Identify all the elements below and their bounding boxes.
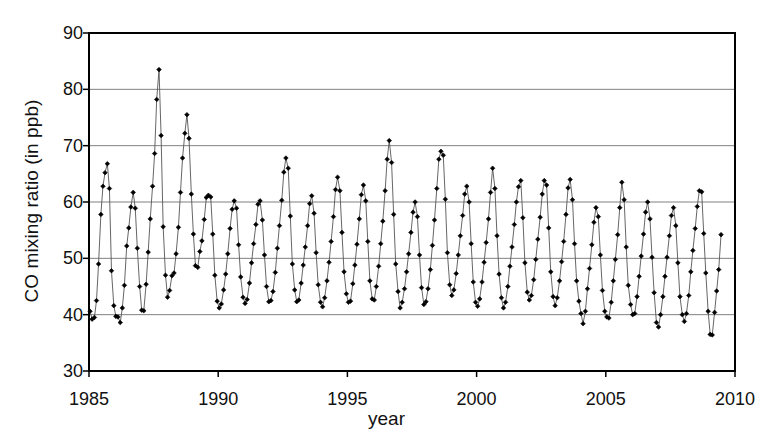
data-point	[454, 271, 459, 276]
data-point	[105, 161, 110, 166]
data-point	[161, 224, 166, 229]
data-point	[327, 260, 332, 265]
data-point	[167, 288, 172, 293]
data-point	[426, 286, 431, 291]
data-point	[581, 321, 586, 326]
data-point	[488, 190, 493, 195]
data-point	[146, 250, 151, 255]
data-point	[527, 298, 532, 303]
data-point	[516, 184, 521, 189]
data-point	[462, 192, 467, 197]
data-point	[701, 231, 706, 236]
data-point	[486, 217, 491, 222]
data-point	[387, 138, 392, 143]
data-point	[691, 248, 696, 253]
data-point	[133, 206, 138, 211]
data-point	[351, 281, 356, 286]
data-point	[152, 151, 157, 156]
data-point	[620, 180, 625, 185]
data-point	[529, 293, 534, 298]
data-point	[325, 279, 330, 284]
data-point	[654, 320, 659, 325]
data-point	[585, 286, 590, 291]
data-point	[464, 184, 469, 189]
data-point	[637, 274, 642, 279]
data-point	[417, 253, 422, 258]
data-point	[652, 290, 657, 295]
data-point	[393, 262, 398, 267]
data-point	[413, 200, 418, 205]
data-point	[288, 214, 293, 219]
data-point	[333, 187, 338, 192]
data-point	[615, 232, 620, 237]
page-bleed-artifact	[0, 424, 773, 441]
data-point	[357, 217, 362, 222]
data-point	[290, 262, 295, 267]
data-point	[150, 184, 155, 189]
data-point	[137, 284, 142, 289]
data-point	[109, 268, 114, 273]
data-point	[704, 271, 709, 276]
data-point	[538, 215, 543, 220]
data-point	[299, 281, 304, 286]
data-point	[693, 226, 698, 231]
data-point	[432, 218, 437, 223]
data-point	[165, 295, 170, 300]
data-point	[435, 186, 440, 191]
data-point	[316, 283, 321, 288]
data-point	[566, 186, 571, 191]
data-point	[490, 166, 495, 171]
data-point	[469, 241, 474, 246]
data-point	[523, 261, 528, 266]
data-point	[609, 300, 614, 305]
data-point	[656, 325, 661, 330]
data-point	[406, 252, 411, 257]
data-point	[548, 270, 553, 275]
data-point	[415, 214, 420, 219]
data-point	[695, 204, 700, 209]
data-point	[243, 301, 248, 306]
data-point	[676, 261, 681, 266]
x-axis-tick-labels: 198519901995200020052010	[0, 376, 773, 404]
data-point	[572, 241, 577, 246]
co-mixing-ratio-chart: CO mixing ratio (in ppb) 90807060504030 …	[0, 0, 773, 441]
data-point	[234, 206, 239, 211]
data-point	[322, 295, 327, 300]
data-point	[639, 254, 644, 259]
data-point	[484, 240, 489, 245]
data-point	[391, 212, 396, 217]
data-point	[557, 279, 562, 284]
data-point	[376, 264, 381, 269]
data-point	[355, 242, 360, 247]
data-point	[101, 184, 106, 189]
data-point	[159, 133, 164, 138]
data-point	[590, 243, 595, 248]
data-point	[719, 232, 724, 237]
data-point	[189, 192, 194, 197]
data-point	[686, 293, 691, 298]
data-point	[305, 223, 310, 228]
data-point	[594, 205, 599, 210]
data-point	[551, 294, 556, 299]
y-tick-60: 60	[39, 193, 83, 211]
data-point	[94, 298, 99, 303]
data-point	[689, 270, 694, 275]
data-point	[577, 299, 582, 304]
data-point	[559, 259, 564, 264]
data-point	[318, 300, 323, 305]
data-point	[148, 217, 153, 222]
data-point	[587, 266, 592, 271]
data-point	[264, 284, 269, 289]
plot-frame	[83, 33, 735, 377]
data-point	[126, 226, 131, 231]
data-point	[641, 232, 646, 237]
data-point	[706, 309, 711, 314]
data-point	[309, 194, 314, 199]
data-point	[658, 312, 663, 317]
data-point	[456, 253, 461, 258]
data-point	[385, 157, 390, 162]
data-point	[645, 200, 650, 205]
data-point	[667, 234, 672, 239]
x-tick-2000: 2000	[447, 390, 507, 408]
data-point	[477, 297, 482, 302]
